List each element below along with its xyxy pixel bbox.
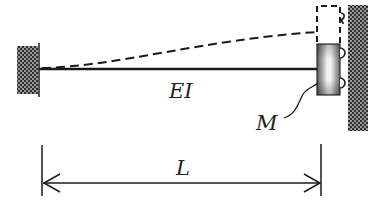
label-EI: EI (168, 79, 193, 103)
end-mass (317, 44, 340, 95)
label-M: M (255, 111, 278, 135)
right-wall-hatch (348, 5, 368, 131)
roller-top (340, 48, 345, 58)
rollers (340, 48, 345, 88)
left-fixed-support (17, 43, 39, 97)
mass-leader-line (284, 83, 318, 118)
left-wall-hatch (17, 46, 38, 94)
roller-bottom (340, 78, 345, 88)
beam-diagram: EI M L (0, 0, 392, 210)
displaced-mass-outline (317, 6, 344, 43)
label-L: L (175, 156, 190, 180)
deflected-beam-curve (42, 32, 317, 68)
